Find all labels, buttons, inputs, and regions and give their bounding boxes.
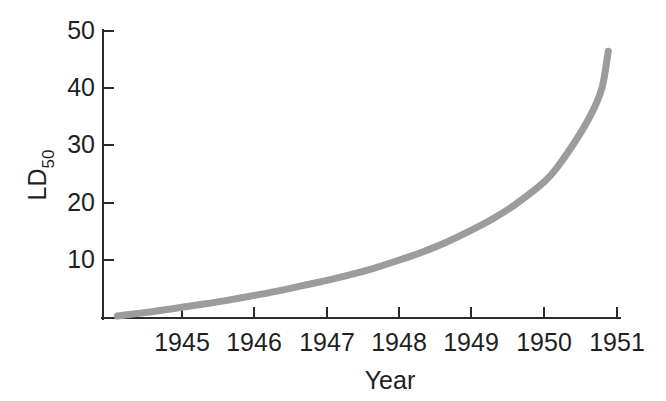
x-tick-label-1947: 1947: [299, 328, 355, 356]
y-tick-label-10: 10: [67, 245, 95, 273]
y-tick-label-40: 40: [67, 73, 95, 101]
chart-figure: 50 40 30 20 10 1945 1946 1947 1948 1949 …: [0, 0, 666, 401]
y-axis-tick-labels: 50 40 30 20 10: [67, 16, 95, 273]
x-axis-tick-labels: 1945 1946 1947 1948 1949 1950 1951: [154, 328, 645, 356]
x-tick-label-1946: 1946: [226, 328, 282, 356]
x-tick-label-1945: 1945: [154, 328, 210, 356]
svg-text:LD50: LD50: [23, 150, 58, 201]
x-tick-label-1950: 1950: [516, 328, 572, 356]
y-tick-label-20: 20: [67, 188, 95, 216]
y-tick-label-50: 50: [67, 16, 95, 44]
ld50-year-line-chart: 50 40 30 20 10 1945 1946 1947 1948 1949 …: [0, 0, 666, 401]
x-axis-ticks: [182, 307, 617, 318]
y-axis-ticks: [103, 31, 114, 260]
y-axis-title-base: LD: [23, 168, 51, 200]
y-axis-title: LD50: [23, 150, 58, 201]
x-axis-title: Year: [365, 366, 416, 394]
x-tick-label-1949: 1949: [443, 328, 499, 356]
y-axis-title-subscript: 50: [39, 150, 58, 169]
y-tick-label-30: 30: [67, 130, 95, 158]
x-tick-label-1951: 1951: [589, 328, 645, 356]
data-series-ld50-curve: [117, 51, 608, 316]
x-tick-label-1948: 1948: [371, 328, 427, 356]
